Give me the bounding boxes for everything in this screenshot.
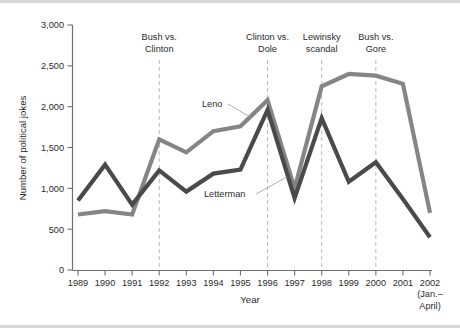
y-tick-label: 2,500 — [41, 61, 64, 71]
event-label-2000-line1: Bush vs. — [358, 32, 393, 42]
y-axis-ticks: 05001,0001,5002,0002,5003,000 — [41, 20, 73, 275]
x-tick-label: 1997 — [284, 278, 304, 288]
event-label-1996-line2: Dole — [258, 44, 277, 54]
x-axis-last-note-line1: (Jan.– — [417, 289, 443, 299]
x-tick-label: 2001 — [393, 278, 413, 288]
y-tick-label: 500 — [49, 225, 64, 235]
x-tick-label: 1989 — [68, 278, 88, 288]
y-tick-label: 3,000 — [41, 20, 64, 30]
series-label-leno: Leno — [202, 99, 222, 109]
chart-figure: 05001,0001,5002,0002,5003,000 1989199019… — [0, 0, 460, 334]
x-tick-label: 1992 — [149, 278, 169, 288]
political-jokes-line-chart: 05001,0001,5002,0002,5003,000 1989199019… — [0, 0, 460, 334]
leno-leader-line — [228, 104, 252, 118]
y-axis-title: Number of political jokes — [17, 96, 28, 201]
event-label-1998-line2: scandal — [306, 44, 338, 54]
x-tick-label: 1994 — [203, 278, 223, 288]
x-tick-label: 1990 — [95, 278, 115, 288]
event-label-1998-line1: Lewinsky — [303, 32, 341, 42]
event-annotation-labels: Bush vs.ClintonClinton vs.DoleLewinskysc… — [142, 32, 394, 54]
letterman-leader-line — [256, 177, 287, 194]
x-tick-label: 1999 — [339, 278, 359, 288]
event-label-1992-line2: Clinton — [145, 44, 174, 54]
chart-series-lines — [78, 74, 430, 237]
y-tick-label: 1,000 — [41, 184, 64, 194]
x-tick-label: 2002 — [420, 278, 440, 288]
y-tick-label: 0 — [59, 265, 64, 275]
x-tick-label: 2000 — [366, 278, 386, 288]
x-tick-label: 1996 — [257, 278, 277, 288]
series-line-letterman — [78, 110, 430, 237]
x-tick-label: 1998 — [311, 278, 331, 288]
y-tick-label: 1,500 — [41, 143, 64, 153]
x-tick-label: 1995 — [230, 278, 250, 288]
x-tick-label: 1993 — [176, 278, 196, 288]
x-axis-last-note-line2: April) — [419, 301, 440, 311]
x-axis-title: Year — [240, 294, 260, 305]
event-label-1996-line1: Clinton vs. — [246, 32, 289, 42]
y-tick-label: 2,000 — [41, 102, 64, 112]
x-tick-label: 1991 — [122, 278, 142, 288]
event-label-1992-line1: Bush vs. — [142, 32, 177, 42]
event-label-2000-line2: Gore — [366, 44, 386, 54]
x-axis-ticks: 1989199019911992199319941995199619971998… — [68, 271, 440, 289]
series-inline-labels: Leno Letterman — [202, 99, 287, 199]
series-label-letterman: Letterman — [204, 189, 245, 199]
